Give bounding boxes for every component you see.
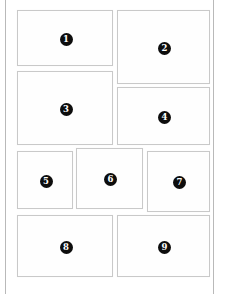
panel-8-number-badge: 8: [60, 241, 73, 254]
panel-5-number-badge: 5: [40, 175, 53, 188]
panel-4-number-badge: 4: [158, 111, 171, 124]
panel-5[interactable]: 5: [17, 151, 73, 209]
panel-1[interactable]: 1: [17, 10, 113, 66]
panel-1-number-badge: 1: [60, 33, 73, 46]
panel-7-number-badge: 7: [173, 176, 186, 189]
panel-4[interactable]: 4: [117, 87, 210, 145]
panel-8[interactable]: 8: [17, 215, 113, 277]
panel-2[interactable]: 2: [117, 10, 210, 84]
panel-7[interactable]: 7: [147, 151, 210, 212]
panel-9-number-badge: 9: [158, 241, 171, 254]
document-page: 123456789: [0, 0, 226, 294]
panel-6-number-badge: 6: [104, 173, 117, 186]
panel-3[interactable]: 3: [17, 71, 113, 145]
panel-6[interactable]: 6: [76, 148, 143, 209]
panel-9[interactable]: 9: [117, 215, 210, 277]
page-sheet: 123456789: [5, 0, 214, 294]
figure-caption: [22, 286, 212, 294]
panel-2-number-badge: 2: [158, 42, 171, 55]
panel-3-number-badge: 3: [60, 103, 73, 116]
